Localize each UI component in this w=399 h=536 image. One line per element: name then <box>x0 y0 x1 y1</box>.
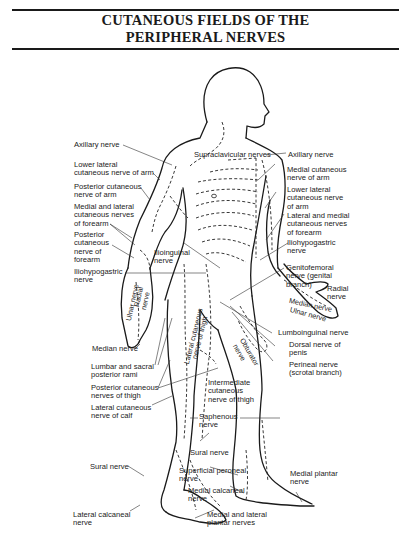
label-posterior-cutaneous-thigh: Posterior cutaneous nerves of thigh <box>91 384 159 401</box>
label-axillary-nerve-right: Axillary nerve <box>288 151 334 159</box>
label-lateral-medial-cutaneous-forearm-right: Lateral and medial cutaneous nerves of f… <box>287 212 349 237</box>
torso-left-edge <box>165 188 186 300</box>
head-outline <box>204 68 269 138</box>
label-superficial-peroneal: Superficial peroneal nerve <box>179 467 246 484</box>
torso-right-edge <box>251 176 266 296</box>
label-lower-lateral-cutaneous-arm-right: Lower lateral cutaneous nerve of arm <box>287 186 343 211</box>
label-iliohypogastric-right: Iliohypogastric nerve <box>287 239 336 256</box>
label-medial-calcaneal: Medial calcaneal nerve <box>188 487 245 504</box>
label-radial-nerve-right: Radial nerve <box>327 285 349 302</box>
label-sural-nerve-left: Sural nerve <box>90 463 129 471</box>
label-ilioinguinal: Ilioinguinal nerve <box>154 249 190 266</box>
label-medial-cutaneous-arm: Medial cutaneous nerve of arm <box>287 166 347 183</box>
label-lateral-cutaneous-calf: Lateral cutaneous nerve of calf <box>91 404 151 421</box>
label-saphenous: Saphenous nerve <box>199 413 237 430</box>
label-lower-lateral-cutaneous-arm-left: Lower lateral cutaneous nerve of arm <box>74 161 154 178</box>
label-iliohypogastric-left: Iliohypogastric nerve <box>74 268 123 285</box>
label-lumbar-sacral-rami: Lumbar and sacral posterior rami <box>91 363 154 380</box>
label-dorsal-nerve-penis: Dorsal nerve of penis <box>289 341 341 358</box>
label-lateral-calcaneal: Lateral calcaneal nerve <box>73 511 130 528</box>
navel-marker <box>212 194 217 198</box>
label-intermediate-cutaneous-thigh: Intermediate cutaneous nerve of thigh <box>208 379 254 404</box>
label-medial-lateral-cutaneous-forearm-left: Medial and lateral cutaneous nerves of f… <box>74 203 134 228</box>
label-axillary-nerve-left: Axillary nerve <box>74 141 120 149</box>
label-medial-lateral-plantar: Medial and lateral plantar nerves <box>207 511 267 528</box>
label-lumboinguinal: Lumboinguinal nerve <box>278 329 349 337</box>
label-sural-nerve-center: Sural nerve <box>190 449 229 457</box>
label-medial-plantar: Medial plantar nerve <box>290 470 338 487</box>
left-leg-outer <box>161 300 177 512</box>
label-supraclavicular: Supraclavicular nerves <box>194 151 271 159</box>
label-posterior-cutaneous-forearm: Posterior cutaneous nerve of forearm <box>74 231 109 265</box>
label-median-nerve-left: Median nerve <box>92 345 138 353</box>
label-posterior-cutaneous-arm: Posterior cutaneous nerve of arm <box>74 183 142 200</box>
label-perineal-nerve: Perineal nerve (scrotal branch) <box>289 361 342 378</box>
